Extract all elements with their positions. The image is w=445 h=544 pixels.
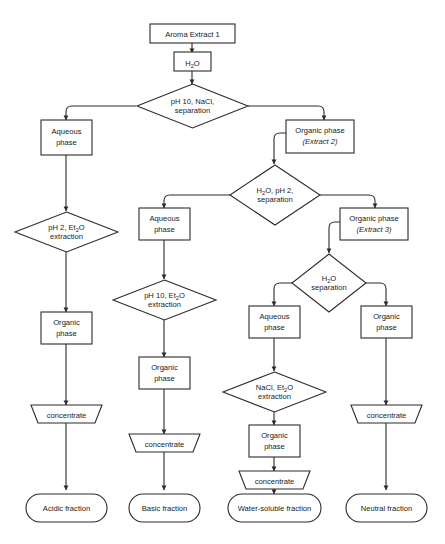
node-aq2-line1: Aqueous	[150, 214, 180, 223]
node-outD-label: Neutral fraction	[361, 504, 413, 513]
node-aq1-line2: phase	[56, 138, 77, 147]
node-concD-label: concentrate	[367, 411, 407, 420]
node-sep1[interactable]: pH 10, NaCl, separation	[137, 84, 248, 128]
node-org1-line1: Organic phase	[295, 126, 344, 135]
node-outC[interactable]: Water-soluble fraction	[228, 494, 321, 522]
node-aq1-line1: Aqueous	[52, 127, 82, 136]
node-concB[interactable]: concentrate	[129, 434, 200, 452]
node-outB-label: Basic fraction	[142, 504, 188, 513]
node-outA[interactable]: Acidic fraction	[26, 494, 107, 522]
node-sep3-line2: separation	[311, 283, 346, 292]
node-orgB-line2: phase	[154, 374, 175, 383]
edge-sep2-to-aq2	[164, 195, 230, 208]
node-sep2[interactable]: H2O, pH 2, separation	[230, 165, 320, 225]
node-concC[interactable]: concentrate	[239, 471, 310, 489]
flowchart-canvas: Aroma Extract 1 H2O pH 10, NaCl, separat…	[0, 0, 445, 544]
node-sep1-line2: separation	[175, 106, 210, 115]
node-outB[interactable]: Basic fraction	[129, 494, 200, 522]
node-aq3[interactable]: Aqueous phase	[249, 306, 300, 338]
node-orgC-line1: Organic	[261, 431, 288, 440]
node-outC-label: Water-soluble fraction	[238, 504, 312, 513]
node-ext-base-line2: extraction	[148, 300, 181, 309]
node-ext-ws[interactable]: NaCl, Et2O extraction	[223, 372, 326, 412]
node-orgB-line1: Organic	[151, 363, 178, 372]
node-ext-base[interactable]: pH 10, Et2O extraction	[113, 280, 216, 320]
node-ext-acid-line2: extraction	[50, 232, 83, 241]
node-concA[interactable]: concentrate	[31, 405, 102, 423]
node-concC-label: concentrate	[255, 477, 295, 486]
node-sep3[interactable]: H2O separation	[292, 254, 366, 312]
node-aq3-line1: Aqueous	[260, 312, 290, 321]
edge-sep3-to-aq3	[274, 283, 292, 306]
node-aq2[interactable]: Aqueous phase	[139, 208, 190, 240]
node-start[interactable]: Aroma Extract 1	[150, 24, 235, 43]
node-org3-line1: Organic	[373, 312, 400, 321]
node-concA-label: concentrate	[47, 411, 87, 420]
node-orgC-line2: phase	[264, 442, 285, 451]
node-start-label: Aroma Extract 1	[165, 30, 219, 39]
node-concB-label: concentrate	[145, 440, 185, 449]
node-orgA-line1: Organic	[53, 318, 80, 327]
edge-org2-to-sep3	[329, 222, 340, 253]
node-org3-line2: phase	[376, 323, 397, 332]
node-org2[interactable]: Organic phase (Extract 3)	[340, 208, 408, 240]
node-org1[interactable]: Organic phase (Extract 2)	[286, 120, 354, 153]
node-ext-acid[interactable]: pH 2, Et2O extraction	[15, 212, 118, 252]
edge-sep1-to-aq1	[66, 106, 136, 120]
node-aq2-line2: phase	[154, 225, 175, 234]
node-water1[interactable]: H2O	[174, 52, 211, 71]
node-orgB[interactable]: Organic phase	[139, 357, 190, 389]
node-outD[interactable]: Neutral fraction	[346, 494, 427, 522]
node-ext-ws-line2: extraction	[258, 392, 291, 401]
edge-sep2-to-org2	[320, 195, 375, 208]
node-aq3-line2: phase	[264, 323, 285, 332]
node-orgC[interactable]: Organic phase	[249, 425, 300, 457]
node-sep2-line2: separation	[257, 195, 292, 204]
node-org1-line2: (Extract 2)	[302, 137, 337, 146]
edge-sep3-to-org3	[366, 283, 386, 306]
node-org2-line2: (Extract 3)	[356, 225, 391, 234]
edge-org1-to-sep2	[274, 133, 286, 164]
node-org2-line1: Organic phase	[349, 214, 398, 223]
node-outA-label: Acidic fraction	[43, 504, 90, 513]
node-concD[interactable]: concentrate	[351, 405, 422, 423]
node-aq1[interactable]: Aqueous phase	[41, 120, 92, 155]
node-orgA[interactable]: Organic phase	[41, 312, 92, 344]
node-orgA-line2: phase	[56, 329, 77, 338]
node-org3[interactable]: Organic phase	[361, 306, 412, 338]
edge-sep1-to-org1	[248, 106, 324, 120]
node-sep1-line1: pH 10, NaCl,	[171, 97, 214, 106]
